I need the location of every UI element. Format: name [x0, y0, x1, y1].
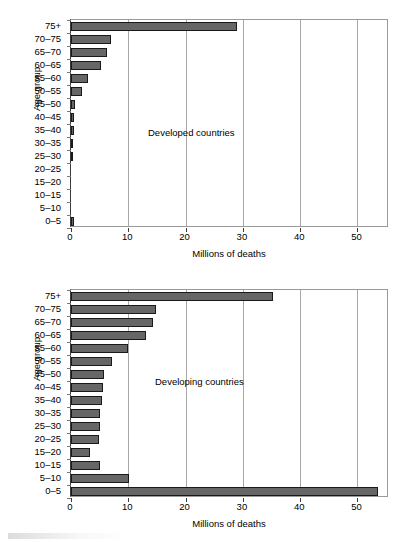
y-tick-label: 75+: [45, 19, 61, 32]
x-tick-label: 40: [294, 500, 305, 513]
y-tick-mark: [67, 472, 71, 473]
y-tick-mark: [67, 150, 71, 151]
gridline: [357, 20, 358, 226]
y-tick-mark: [67, 498, 71, 499]
bar: [71, 370, 104, 379]
x-tick-label: 20: [179, 230, 190, 243]
bar: [71, 87, 82, 96]
bar: [71, 100, 75, 109]
y-tick-label: 5–10: [40, 201, 61, 214]
y-tick-label: 55–60: [35, 341, 61, 354]
y-tick-mark: [67, 381, 71, 382]
y-tick-mark: [67, 459, 71, 460]
bar: [71, 35, 111, 44]
x-tick-label: 30: [237, 230, 248, 243]
y-tick-mark: [67, 176, 71, 177]
chart-panel-developing: Age group 75+70–7565–7060–6555–6050–5545…: [0, 274, 407, 536]
bar: [71, 126, 74, 135]
plot-area-developing: [70, 289, 388, 497]
bar: [71, 61, 101, 70]
bar: [71, 318, 153, 327]
annotation-developed: Developed countries: [148, 126, 235, 139]
y-tick-label: 20–25: [35, 432, 61, 445]
y-tick-mark: [67, 290, 71, 291]
y-tick-labels-developing: 75+70–7565–7060–6555–6050–5545–5040–4535…: [10, 289, 65, 497]
y-tick-label: 60–65: [35, 328, 61, 341]
y-tick-label: 25–30: [35, 419, 61, 432]
x-tick-label: 30: [237, 500, 248, 513]
gridline: [243, 290, 244, 496]
y-tick-label: 65–70: [35, 315, 61, 328]
bar: [71, 292, 273, 301]
x-tick-label: 40: [294, 230, 305, 243]
y-tick-mark: [67, 137, 71, 138]
y-tick-label: 30–35: [35, 136, 61, 149]
y-tick-mark: [67, 342, 71, 343]
gridline: [186, 290, 187, 496]
plot-area-developed: [70, 19, 388, 227]
y-tick-label: 55–60: [35, 71, 61, 84]
annotation-developing: Developing countries: [155, 375, 244, 388]
x-tick-label: 10: [122, 230, 133, 243]
page-caption-smudge: [8, 533, 128, 539]
bar: [71, 409, 100, 418]
y-tick-mark: [67, 215, 71, 216]
y-tick-mark: [67, 433, 71, 434]
y-tick-mark: [67, 163, 71, 164]
x-tick-label: 0: [67, 500, 72, 513]
x-axis-title-developed: Millions of deaths: [70, 247, 388, 260]
bar: [71, 474, 129, 483]
y-tick-label: 10–15: [35, 188, 61, 201]
bar: [71, 113, 74, 122]
y-tick-label: 40–45: [35, 380, 61, 393]
y-tick-label: 0–5: [45, 214, 61, 227]
y-tick-label: 15–20: [35, 175, 61, 188]
y-tick-label: 70–75: [35, 32, 61, 45]
y-tick-label: 50–55: [35, 84, 61, 97]
bar: [71, 383, 103, 392]
y-tick-label: 20–25: [35, 162, 61, 175]
bar: [71, 396, 102, 405]
y-tick-label: 50–55: [35, 354, 61, 367]
y-tick-mark: [67, 368, 71, 369]
y-tick-label: 15–20: [35, 445, 61, 458]
bar: [71, 139, 73, 148]
y-tick-mark: [67, 394, 71, 395]
y-tick-label: 30–35: [35, 406, 61, 419]
y-tick-mark: [67, 355, 71, 356]
x-tick-label: 50: [351, 500, 362, 513]
y-tick-mark: [67, 407, 71, 408]
y-tick-label: 10–15: [35, 458, 61, 471]
bar: [71, 487, 378, 496]
chart-panel-developed: Age group 75+70–7565–7060–6555–6050–5545…: [0, 4, 407, 266]
bar: [71, 461, 100, 470]
y-tick-mark: [67, 46, 71, 47]
y-tick-mark: [67, 329, 71, 330]
y-tick-label: 40–45: [35, 110, 61, 123]
figure-age-group-deaths: Age group 75+70–7565–7060–6555–6050–5545…: [0, 0, 407, 542]
y-tick-mark: [67, 72, 71, 73]
bar: [71, 48, 107, 57]
y-tick-mark: [67, 33, 71, 34]
y-tick-mark: [67, 202, 71, 203]
y-tick-mark: [67, 303, 71, 304]
y-tick-label: 65–70: [35, 45, 61, 58]
y-tick-mark: [67, 59, 71, 60]
bar: [71, 331, 146, 340]
x-tick-label: 50: [351, 230, 362, 243]
y-tick-mark: [67, 85, 71, 86]
y-tick-mark: [67, 485, 71, 486]
bar: [71, 448, 90, 457]
y-tick-mark: [67, 420, 71, 421]
y-tick-label: 45–50: [35, 97, 61, 110]
y-tick-mark: [67, 124, 71, 125]
y-tick-label: 75+: [45, 289, 61, 302]
bar: [71, 422, 100, 431]
y-tick-label: 60–65: [35, 58, 61, 71]
bar: [71, 305, 156, 314]
bar: [71, 74, 88, 83]
y-tick-mark: [67, 189, 71, 190]
y-tick-mark: [67, 111, 71, 112]
x-tick-label: 10: [122, 500, 133, 513]
y-tick-label: 25–30: [35, 149, 61, 162]
